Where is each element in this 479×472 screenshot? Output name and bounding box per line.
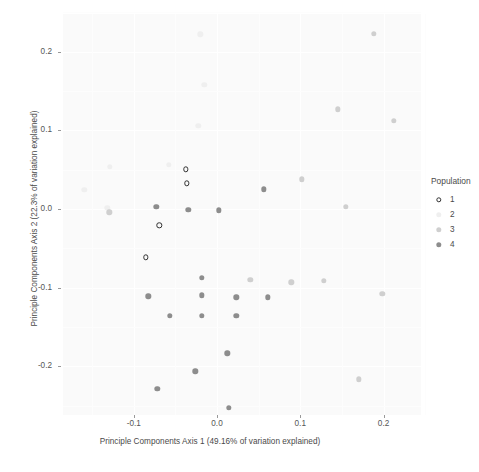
legend-marker-icon <box>431 222 446 237</box>
legend-item-2[interactable]: 2 <box>431 207 471 222</box>
legend-item-3[interactable]: 3 <box>431 222 471 237</box>
y-tick-label: -0.2 <box>0 361 52 370</box>
legend-entries: 1234 <box>431 192 471 252</box>
x-tick-label: -0.1 <box>114 419 154 428</box>
gridline-vertical-minor <box>175 14 176 415</box>
legend-marker-icon <box>431 237 446 252</box>
plot-panel <box>63 14 421 415</box>
y-axis-title: Principle Components Axis 2 (22.3% of va… <box>30 19 39 419</box>
gridline-vertical <box>217 14 218 415</box>
gridline-horizontal-minor <box>63 91 421 92</box>
y-tick-label: 0.2 <box>0 47 52 56</box>
gridline-horizontal-minor <box>63 248 421 249</box>
gridline-horizontal <box>63 130 421 131</box>
x-tick-label: 0.0 <box>197 419 237 428</box>
legend-item-4[interactable]: 4 <box>431 237 471 252</box>
gridline-horizontal-minor <box>63 12 421 13</box>
legend: Population 1234 <box>431 176 471 252</box>
gridline-horizontal <box>63 52 421 53</box>
gridline-horizontal <box>63 366 421 367</box>
gridline-vertical-minor <box>425 14 426 415</box>
y-tick-label: 0.0 <box>0 204 52 213</box>
legend-dot <box>436 212 441 217</box>
legend-dot <box>436 227 441 232</box>
legend-dot <box>436 197 441 202</box>
legend-dot <box>436 242 441 247</box>
gridline-vertical <box>384 14 385 415</box>
y-tick-label: -0.1 <box>0 283 52 292</box>
x-tick-mark <box>300 415 301 418</box>
gridline-vertical <box>134 14 135 415</box>
y-tick-label: 0.1 <box>0 125 52 134</box>
gridline-vertical <box>300 14 301 415</box>
x-tick-mark <box>217 415 218 418</box>
y-tick-mark <box>58 52 61 53</box>
y-tick-mark <box>58 288 61 289</box>
x-axis-title: Principle Components Axis 1 (49.16% of v… <box>0 437 420 446</box>
x-tick-mark <box>134 415 135 418</box>
gridline-vertical-minor <box>92 14 93 415</box>
gridline-horizontal-minor <box>63 327 421 328</box>
gridline-horizontal-minor <box>63 406 421 407</box>
y-tick-mark <box>58 130 61 131</box>
legend-title: Population <box>431 176 471 186</box>
gridline-horizontal-minor <box>63 170 421 171</box>
x-tick-label: 0.1 <box>280 419 320 428</box>
legend-label: 4 <box>450 240 455 249</box>
x-tick-mark <box>384 415 385 418</box>
gridline-vertical-minor <box>259 14 260 415</box>
y-tick-mark <box>58 366 61 367</box>
legend-label: 1 <box>450 195 455 204</box>
gridline-horizontal <box>63 209 421 210</box>
scatter-plot-figure: 0.20.10.0-0.1-0.2-0.10.00.10.2 Principle… <box>0 0 479 472</box>
legend-label: 3 <box>450 225 455 234</box>
x-tick-label: 0.2 <box>364 419 404 428</box>
gridline-horizontal <box>63 288 421 289</box>
legend-label: 2 <box>450 210 455 219</box>
legend-marker-icon <box>431 207 446 222</box>
legend-marker-icon <box>431 192 446 207</box>
gridline-vertical-minor <box>342 14 343 415</box>
legend-item-1[interactable]: 1 <box>431 192 471 207</box>
y-tick-mark <box>58 209 61 210</box>
